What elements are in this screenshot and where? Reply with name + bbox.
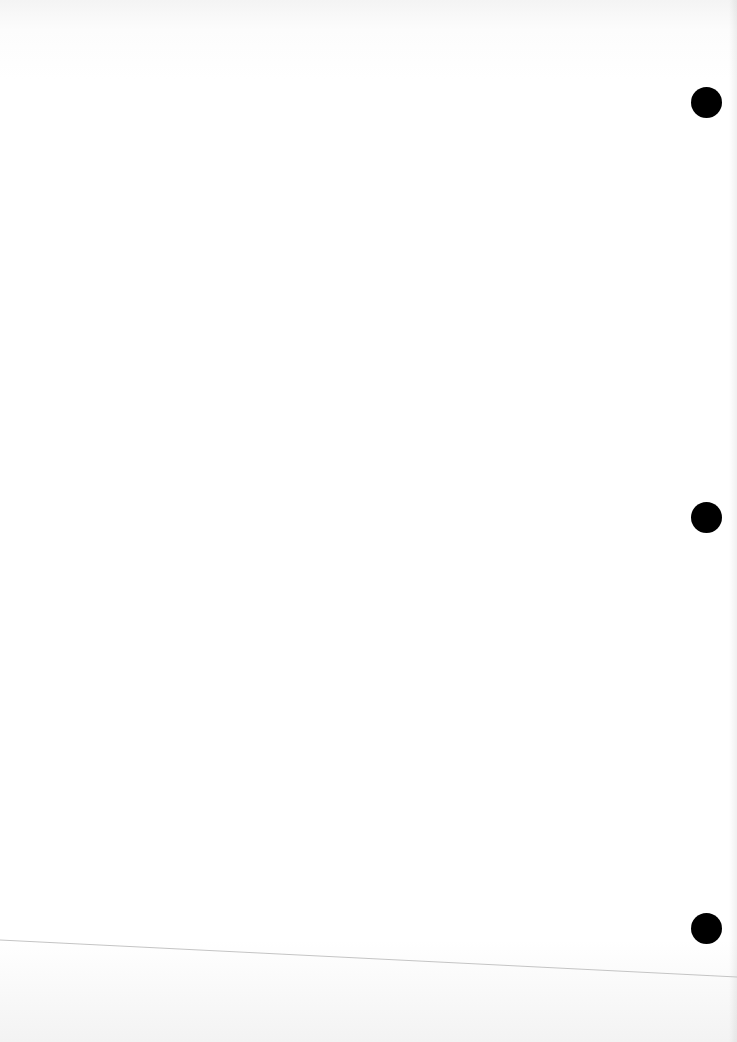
faint-rule-line bbox=[0, 0, 737, 1042]
blank-page bbox=[0, 0, 737, 1042]
